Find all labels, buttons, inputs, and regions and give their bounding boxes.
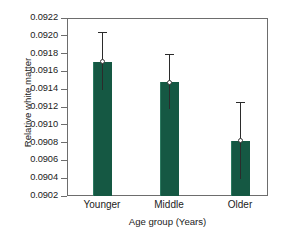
y-tick-label: 0.0916 [30, 66, 58, 75]
y-tick-mark [61, 196, 67, 197]
y-tick-mark [61, 18, 67, 19]
y-tick-label: 0.0920 [30, 31, 58, 40]
y-tick-label: 0.0922 [30, 13, 58, 22]
error-bar-cap-upper-younger [98, 32, 107, 33]
data-point-marker-older [238, 138, 243, 143]
y-tick-label: 0.0918 [30, 49, 58, 58]
y-tick-label: 0.0914 [30, 84, 58, 93]
x-tick-label-older: Older [195, 199, 281, 210]
y-tick-mark [61, 89, 67, 90]
y-tick-mark [61, 142, 67, 143]
y-tick-mark [61, 53, 67, 54]
chart-figure: 0.09220.09200.09180.09160.09140.09120.09… [0, 0, 281, 238]
y-tick-label: 0.0910 [30, 120, 58, 129]
y-tick-mark [61, 107, 67, 108]
y-tick-mark [61, 35, 67, 36]
data-point-marker-younger [100, 59, 105, 64]
x-axis-title: Age group (Years) [67, 216, 268, 227]
y-axis-title: Relative white matter [22, 23, 33, 183]
y-tick-mark [61, 71, 67, 72]
y-tick-label: 0.0908 [30, 138, 58, 147]
y-tick-mark [61, 160, 67, 161]
y-tick-label: 0.0906 [30, 155, 58, 164]
data-point-marker-middle [167, 80, 172, 85]
y-tick-mark [61, 124, 67, 125]
y-tick-label: 0.0904 [30, 173, 58, 182]
y-tick-label: 0.0912 [30, 102, 58, 111]
y-tick-label: 0.0902 [30, 191, 58, 200]
y-tick-mark [61, 178, 67, 179]
error-bar-cap-upper-middle [165, 54, 174, 55]
error-bar-cap-upper-older [236, 102, 245, 103]
